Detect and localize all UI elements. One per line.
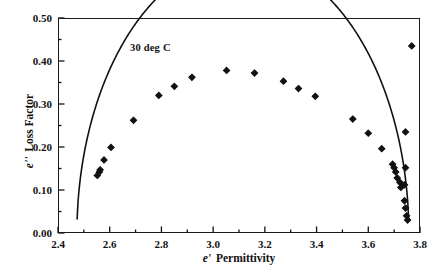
plot-frame-border bbox=[58, 18, 420, 233]
x-tick-label: 2.8 bbox=[155, 238, 169, 250]
cole-cole-figure: 30 deg C 2.42.62.83.03.23.43.63.80.000.1… bbox=[0, 0, 442, 280]
y-axis-title: e''Loss Factor bbox=[23, 56, 35, 206]
y-tick-label: 0.10 bbox=[33, 184, 52, 196]
y-axis-prime: '' bbox=[23, 157, 35, 163]
y-axis-title-text: Loss Factor bbox=[23, 94, 35, 152]
y-axis-symbol: e bbox=[23, 163, 35, 168]
y-tick-label: 0.20 bbox=[33, 141, 52, 153]
x-tick-label: 3.6 bbox=[361, 238, 375, 250]
x-axis-title-text: Permittivity bbox=[216, 252, 275, 264]
x-tick-label: 2.6 bbox=[103, 238, 117, 250]
x-tick-label: 3.2 bbox=[258, 238, 272, 250]
x-tick-label: 2.4 bbox=[51, 238, 65, 250]
y-tick-label: 0.00 bbox=[33, 227, 52, 239]
x-tick-label: 3.0 bbox=[206, 238, 220, 250]
x-axis-title: e'Permittivity bbox=[58, 252, 420, 264]
temperature-annotation: 30 deg C bbox=[130, 42, 171, 53]
x-tick-label: 3.4 bbox=[310, 238, 324, 250]
x-tick-label: 3.8 bbox=[413, 238, 427, 250]
plot-area: 30 deg C bbox=[58, 18, 420, 233]
y-tick-label: 0.50 bbox=[33, 12, 52, 24]
y-tick-label: 0.30 bbox=[33, 98, 52, 110]
x-axis-prime: ' bbox=[208, 252, 211, 264]
y-tick-label: 0.40 bbox=[33, 55, 52, 67]
